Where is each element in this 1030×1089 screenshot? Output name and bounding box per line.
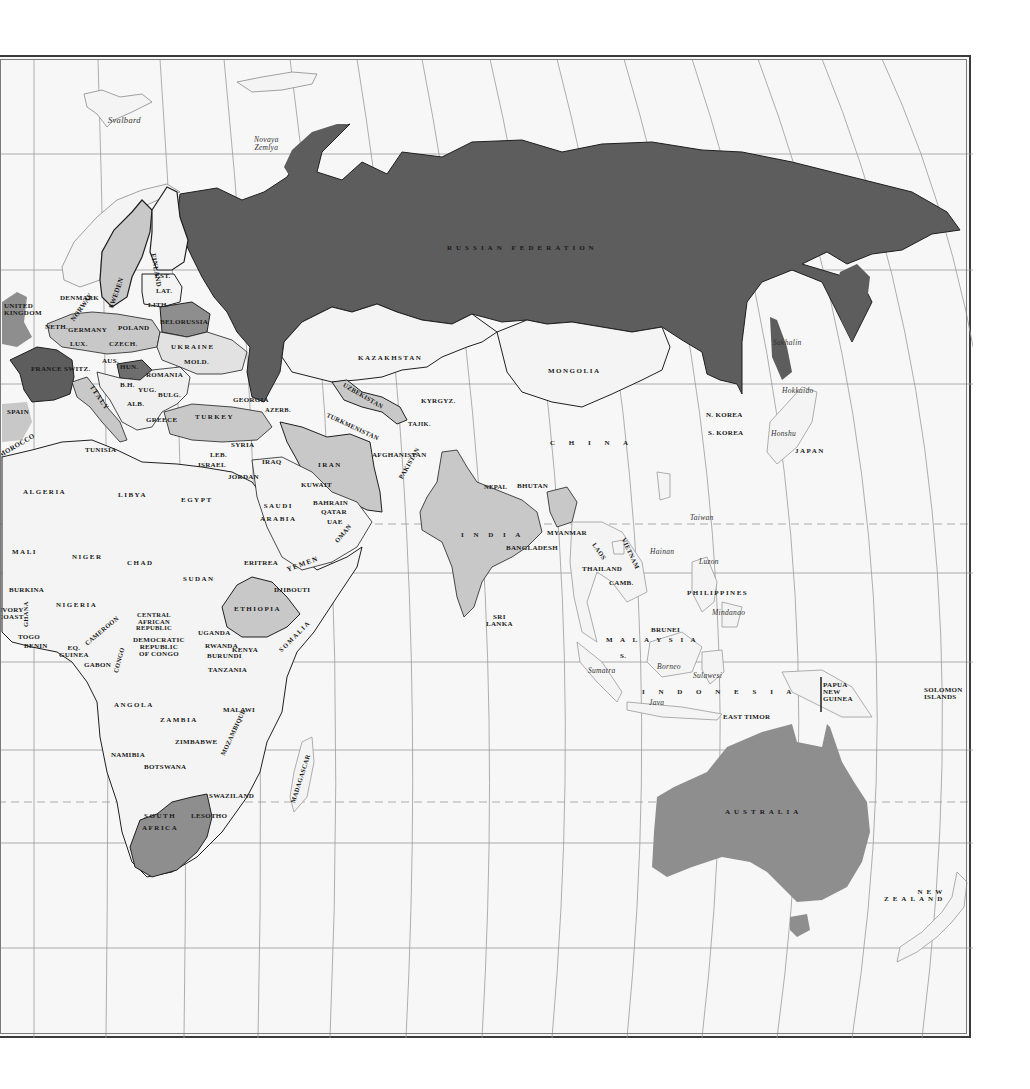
label-sakhalin: Sakhalin xyxy=(773,339,802,347)
label-bulgaria: BULG. xyxy=(158,392,181,399)
mongolia-shape xyxy=(497,320,670,407)
label-georgia: GEORGIA xyxy=(233,397,269,404)
label-mali: MALI xyxy=(12,549,37,556)
label-sudan: SUDAN xyxy=(183,576,215,583)
label-sulawesi: Sulawesi xyxy=(693,672,722,680)
label-libya: LIBYA xyxy=(118,492,147,499)
label-namibia: NAMIBIA xyxy=(111,752,145,759)
label-chad: CHAD xyxy=(127,560,154,567)
label-mongolia: MONGOLIA xyxy=(548,368,600,375)
world-map-svg xyxy=(0,57,973,1040)
label-indonesia: I N D O N E S I A xyxy=(642,689,797,696)
label-thailand: THAILAND xyxy=(582,566,622,573)
sakhalin-shape xyxy=(770,317,792,380)
india-east-shape xyxy=(547,487,577,527)
france-shape xyxy=(10,347,74,402)
label-rwanda: RWANDA xyxy=(205,643,238,650)
label-burundi: BURUNDI xyxy=(207,653,242,660)
kamchatka-shape xyxy=(834,264,870,342)
label-qatar: QATAR xyxy=(321,509,347,516)
label-tajikistan: TAJIK. xyxy=(408,421,431,428)
label-angola: ANGOLA xyxy=(114,702,154,709)
label-estonia: EST. xyxy=(155,273,171,280)
franz-josef-land-shape xyxy=(237,72,317,92)
label-taiwan: Taiwan xyxy=(690,514,714,522)
label-luzon: Luzon xyxy=(699,558,719,566)
label-iraq: IRAQ xyxy=(262,459,281,466)
label-togo: TOGO xyxy=(18,634,40,641)
label-moldova: MOLD. xyxy=(184,359,209,366)
label-novaya-zemlya: Novaya Zemlya xyxy=(254,136,279,151)
label-uae: UAE xyxy=(327,519,343,526)
label-france: FRANCE xyxy=(31,366,62,373)
label-hainan: Hainan xyxy=(650,548,674,556)
label-zimbabwe: ZIMBABWE xyxy=(175,739,217,746)
label-east-timor: EAST TIMOR xyxy=(723,714,770,721)
label-java: Java xyxy=(649,699,664,707)
label-india: I N D I A xyxy=(461,532,524,539)
label-azerbaijan: AZERB. xyxy=(265,407,291,414)
label-bhutan: BHUTAN xyxy=(517,483,548,490)
label-denmark: DENMARK xyxy=(60,295,99,302)
label-n-korea: N. KOREA xyxy=(706,412,743,419)
label-burkina: BURKINA xyxy=(9,587,44,594)
label-uk: UNITED KINGDOM xyxy=(4,303,42,317)
label-egypt: EGYPT xyxy=(181,497,213,504)
label-iran: IRAN xyxy=(318,462,342,469)
label-czech: CZECH. xyxy=(109,341,137,348)
label-saudi-arabia: SAUDI ARABIA xyxy=(260,500,297,525)
label-mindanao: Mindanao xyxy=(712,609,745,617)
label-borneo: Borneo xyxy=(657,663,681,671)
label-netherlands: NETH. xyxy=(45,324,68,331)
uk-shape xyxy=(2,292,32,347)
label-singapore: S. xyxy=(620,653,626,660)
label-russia: RUSSIAN FEDERATION xyxy=(447,245,598,252)
label-switzerland: SWITZ. xyxy=(64,366,91,373)
label-china: C H I N A xyxy=(550,440,634,447)
label-car: CENTRAL AFRICAN REPUBLIC xyxy=(136,612,172,632)
label-sumatra: Sumatra xyxy=(588,667,616,675)
label-new-zealand: NEW ZEALAND xyxy=(884,889,946,903)
label-eritrea: ERITREA xyxy=(244,560,278,567)
label-bosnia: B.H. xyxy=(120,382,135,389)
label-benin: BENIN xyxy=(24,643,48,650)
label-tunisia: TUNISIA xyxy=(85,447,116,454)
label-algeria: ALGERIA xyxy=(23,489,66,496)
label-kyrgyzstan: KYRGYZ. xyxy=(421,398,456,405)
label-brunei: BRUNEI xyxy=(651,627,680,634)
label-eq-guinea: EQ. GUINEA xyxy=(59,645,89,659)
label-kazakhstan: KAZAKHSTAN xyxy=(358,355,422,362)
label-bahrain: BAHRAIN xyxy=(313,500,348,507)
label-turkey: TURKEY xyxy=(195,414,234,421)
map-frame: RUSSIAN FEDERATION Svalbard Novaya Zemly… xyxy=(0,55,971,1038)
label-lebanon: LEB. xyxy=(210,452,227,459)
tasmania-shape xyxy=(790,914,810,937)
label-nepal: NEPAL xyxy=(484,484,507,491)
label-cambodia: CAMB. xyxy=(609,580,634,587)
label-myanmar: MYANMAR xyxy=(547,530,587,537)
label-sri-lanka: SRI LANKA xyxy=(486,614,513,628)
label-austria: AUS. xyxy=(102,358,119,365)
label-poland: POLAND xyxy=(118,325,149,332)
label-nigeria: NIGERIA xyxy=(56,602,97,609)
label-drc: DEMOCRATIC REPUBLIC OF CONGO xyxy=(133,637,185,658)
label-kuwait: KUWAIT xyxy=(301,482,332,489)
label-svalbard: Svalbard xyxy=(108,116,141,125)
turkey-shape xyxy=(164,404,272,442)
label-malaysia: M A L A Y S I A xyxy=(606,637,699,644)
label-botswana: BOTSWANA xyxy=(144,764,186,771)
label-papua-new-guinea: PAPUA NEW GUINEA xyxy=(823,682,853,703)
label-luxembourg: LUX. xyxy=(70,341,88,348)
label-hokkaido: Hokkaido xyxy=(782,387,814,395)
label-solomon-islands: SOLOMON ISLANDS xyxy=(924,687,963,701)
label-lithuania: LITH. xyxy=(148,302,169,309)
label-greece: GREECE xyxy=(146,417,177,424)
label-honshu: Honshu xyxy=(771,430,796,438)
label-latvia: LAT. xyxy=(156,288,172,295)
label-s-korea: S. KOREA xyxy=(708,430,743,437)
label-zambia: ZAMBIA xyxy=(160,717,198,724)
label-bangladesh: BANGLADESH xyxy=(506,545,558,552)
label-niger: NIGER xyxy=(72,554,102,561)
label-israel: ISRAEL xyxy=(198,462,226,469)
label-jordan: JORDAN xyxy=(228,474,259,481)
